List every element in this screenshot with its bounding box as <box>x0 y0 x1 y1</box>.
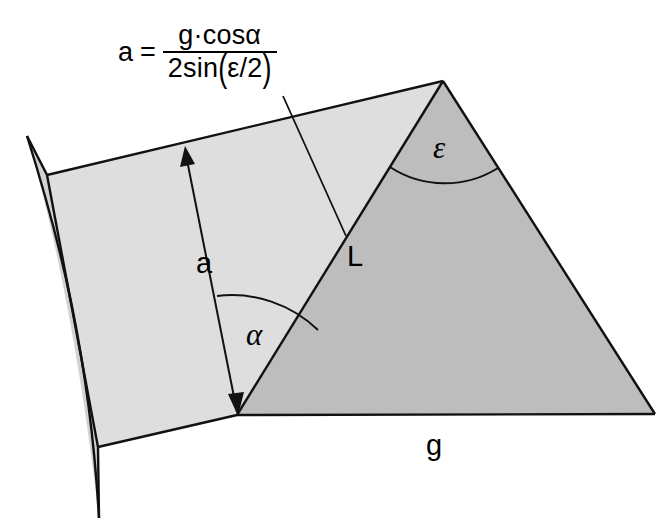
geometry-diagram: a L g α ε <box>0 0 666 532</box>
label-alpha: α <box>246 317 263 352</box>
label-L: L <box>347 240 363 272</box>
formula-expression: a = g·cosα 2sin(ε/2) <box>118 22 277 82</box>
formula-paren-open: ( <box>218 49 227 88</box>
formula-denominator-prefix: 2sin <box>168 53 218 83</box>
formula-lhs: a <box>118 39 133 66</box>
label-g: g <box>426 429 442 461</box>
formula-fraction: g·cosα 2sin(ε/2) <box>163 22 277 82</box>
label-a: a <box>196 247 213 279</box>
formula-denominator-inner: ε/2 <box>227 53 262 83</box>
formula-denominator: 2sin(ε/2) <box>163 53 277 82</box>
label-epsilon: ε <box>433 130 446 165</box>
formula-equals: = <box>140 39 156 66</box>
edge-base-g <box>237 414 655 415</box>
formula-paren-close: ) <box>263 49 272 88</box>
figure-root: a L g α ε a = g·cosα 2sin(ε/2) <box>0 0 666 532</box>
